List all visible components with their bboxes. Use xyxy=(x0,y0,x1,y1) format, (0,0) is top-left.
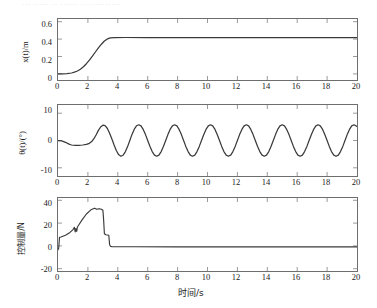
xtick-p1-5: 10 xyxy=(197,82,215,91)
xtick-p2-1: 2 xyxy=(78,178,96,187)
xtick-p2-5: 10 xyxy=(197,178,215,187)
ytick-p1-3: 0 xyxy=(30,74,52,82)
ytick-p3-3: -20 xyxy=(26,265,52,273)
figure-root: ··· ····· ·· ······ ············· x(t)/m… xyxy=(0,0,377,308)
xlabel-time: 时间/s xyxy=(178,286,204,299)
xtick-p3-3: 6 xyxy=(138,273,156,282)
xtick-p1-10: 20 xyxy=(347,82,365,91)
xtick-p1-9: 18 xyxy=(317,82,335,91)
xtick-p2-7: 14 xyxy=(257,178,275,187)
ytick-p1-0: 0.6 xyxy=(30,20,52,28)
plot-svg-control-effort xyxy=(58,198,357,271)
plot-area-pendulum-angle xyxy=(57,104,358,177)
xtick-p3-2: 4 xyxy=(108,273,126,282)
xtick-p2-8: 16 xyxy=(287,178,305,187)
ytick-p2-1: 0 xyxy=(26,136,52,144)
ytick-p1-2: 0.2 xyxy=(30,56,52,64)
ytick-p3-1: 20 xyxy=(26,221,52,229)
xtick-p2-0: 0 xyxy=(48,178,66,187)
ytick-marks-p2 xyxy=(58,113,357,168)
xtick-p2-9: 18 xyxy=(317,178,335,187)
xtick-p1-0: 0 xyxy=(48,82,66,91)
xtick-marks-p1 xyxy=(88,19,327,80)
plot-area-control-effort xyxy=(57,197,358,272)
ytick-p3-0: 40 xyxy=(26,199,52,207)
xtick-p3-1: 2 xyxy=(78,273,96,282)
xtick-p1-2: 4 xyxy=(108,82,126,91)
xtick-p1-4: 8 xyxy=(168,82,186,91)
xtick-p2-4: 8 xyxy=(168,178,186,187)
xtick-p1-6: 12 xyxy=(227,82,245,91)
plot-area-cart-position xyxy=(57,18,358,81)
plot-svg-pendulum-angle xyxy=(58,105,357,176)
ytick-p1-1: 0.4 xyxy=(30,38,52,46)
ytick-p3-2: 0 xyxy=(26,243,52,251)
xtick-p3-8: 16 xyxy=(287,273,305,282)
ytick-marks-p1 xyxy=(58,22,357,74)
xtick-p3-7: 14 xyxy=(257,273,275,282)
xtick-p2-3: 6 xyxy=(138,178,156,187)
data-line-cart-position xyxy=(58,38,357,74)
xtick-p3-6: 12 xyxy=(227,273,245,282)
xtick-p2-10: 20 xyxy=(347,178,365,187)
xtick-p3-10: 20 xyxy=(347,273,365,282)
xtick-p2-6: 12 xyxy=(227,178,245,187)
ytick-p2-2: -10 xyxy=(26,166,52,174)
xtick-p1-8: 16 xyxy=(287,82,305,91)
ylabel-cart-position: x(t)/m xyxy=(20,22,30,82)
ytick-p2-0: 10 xyxy=(26,106,52,114)
data-line-control-effort xyxy=(58,208,357,250)
xtick-marks-p3 xyxy=(88,198,327,271)
xtick-p3-4: 8 xyxy=(168,273,186,282)
xtick-p1-1: 2 xyxy=(78,82,96,91)
xtick-p3-5: 10 xyxy=(197,273,215,282)
xtick-p3-0: 0 xyxy=(48,273,66,282)
ylabel-control-effort: 控制量/N xyxy=(15,207,26,271)
xtick-p1-3: 6 xyxy=(138,82,156,91)
xtick-p2-2: 4 xyxy=(108,178,126,187)
plot-svg-cart-position xyxy=(58,19,357,80)
xtick-p3-9: 18 xyxy=(317,273,335,282)
xtick-p1-7: 14 xyxy=(257,82,275,91)
data-line-pendulum-angle xyxy=(58,125,357,156)
caption-strip: ··· ····· ·· ······ ············· xyxy=(22,0,212,9)
